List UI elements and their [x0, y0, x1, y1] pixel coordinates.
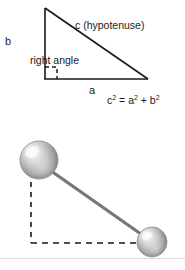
- distance-connector-line: [44, 166, 148, 239]
- figure-root: b a c (hypotenuse) right angle c2 = a2 +…: [0, 0, 185, 270]
- bottom-divider: [0, 258, 185, 259]
- pythagorean-equation: c2 = a2 + b2: [107, 95, 160, 106]
- label-hypotenuse: c (hypotenuse): [75, 20, 144, 31]
- distance-graphics: [0, 118, 185, 270]
- label-right-angle: right angle: [30, 55, 79, 66]
- equation-b-exponent: 2: [156, 94, 160, 101]
- sphere-target: [137, 227, 167, 257]
- equation-equals: =: [116, 94, 128, 106]
- right-triangle-diagram: b a c (hypotenuse) right angle c2 = a2 +…: [0, 0, 185, 118]
- label-leg-a: a: [89, 85, 95, 96]
- label-leg-b: b: [5, 36, 11, 47]
- sphere-origin: [20, 141, 58, 179]
- right-angle-marker-icon: [45, 67, 57, 79]
- equation-plus: +: [138, 94, 150, 106]
- distance-diagram: y x Math.sqrt(x*x + y*y): [0, 118, 185, 270]
